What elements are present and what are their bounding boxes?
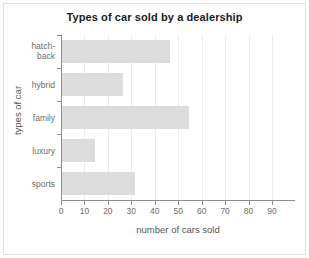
x-tick-label-30: 30 bbox=[118, 206, 144, 216]
y-tick-2 bbox=[57, 101, 61, 102]
chart-screenshot: Types of car sold by a dealership 010203… bbox=[0, 0, 309, 258]
bar-sports bbox=[62, 172, 135, 195]
x-tick-80 bbox=[249, 201, 250, 205]
y-tick-label-0: hatch- back bbox=[10, 41, 55, 61]
x-tick-label-10: 10 bbox=[71, 206, 97, 216]
gridline-60 bbox=[202, 35, 203, 200]
y-tick-0 bbox=[57, 35, 61, 36]
chart-title: Types of car sold by a dealership bbox=[0, 11, 309, 23]
y-tick-label-4: sports bbox=[10, 173, 55, 189]
x-tick-label-80: 80 bbox=[236, 206, 262, 216]
bar-family bbox=[62, 106, 189, 129]
x-tick-label-90: 90 bbox=[259, 206, 285, 216]
gridline-70 bbox=[225, 35, 226, 200]
bar-hybrid bbox=[62, 73, 123, 96]
x-tick-70 bbox=[225, 201, 226, 205]
y-tick-1 bbox=[57, 68, 61, 69]
y-axis-label: types of car bbox=[12, 71, 23, 151]
x-tick-0 bbox=[61, 201, 62, 205]
y-tick-label-wrap-0: hatch- back bbox=[10, 41, 55, 63]
y-tick-3 bbox=[57, 134, 61, 135]
x-tick-label-60: 60 bbox=[189, 206, 215, 216]
x-tick-90 bbox=[272, 201, 273, 205]
bar-luxury bbox=[62, 139, 95, 162]
x-tick-10 bbox=[84, 201, 85, 205]
bar-hatchback bbox=[62, 40, 170, 63]
x-tick-30 bbox=[131, 201, 132, 205]
gridline-90 bbox=[272, 35, 273, 200]
x-tick-40 bbox=[155, 201, 156, 205]
y-tick-4 bbox=[57, 167, 61, 168]
x-tick-50 bbox=[178, 201, 179, 205]
x-tick-60 bbox=[202, 201, 203, 205]
x-tick-20 bbox=[108, 201, 109, 205]
gridline-80 bbox=[249, 35, 250, 200]
x-axis-label: number of cars sold bbox=[61, 224, 295, 235]
x-tick-label-50: 50 bbox=[165, 206, 191, 216]
y-tick-label-wrap-4: sports bbox=[10, 173, 55, 195]
x-tick-label-70: 70 bbox=[212, 206, 238, 216]
x-tick-label-40: 40 bbox=[142, 206, 168, 216]
x-tick-label-0: 0 bbox=[48, 206, 74, 216]
x-tick-label-20: 20 bbox=[95, 206, 121, 216]
